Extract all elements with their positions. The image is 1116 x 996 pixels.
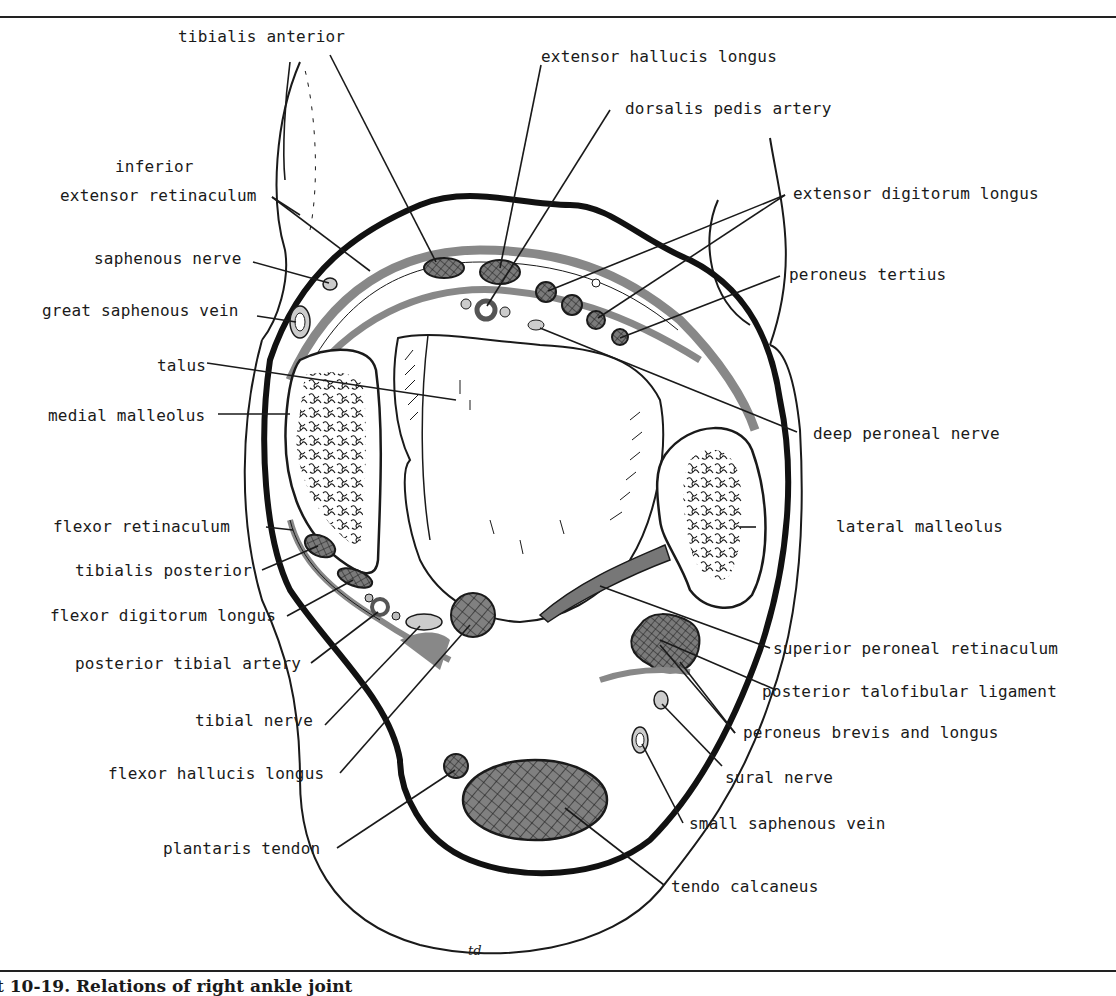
label-tibialis-anterior: tibialis anterior	[178, 28, 345, 46]
label-inferior-extensor-retinaculum-line1: inferior	[115, 158, 194, 176]
label-posterior-talofibular-ligament: posterior talofibular ligament	[762, 683, 1057, 701]
label-deep-peroneal-nerve: deep peroneal nerve	[813, 425, 1000, 443]
label-talus: talus	[157, 357, 206, 375]
label-flexor-digitorum-longus: flexor digitorum longus	[50, 607, 276, 625]
label-medial-malleolus: medial malleolus	[48, 407, 205, 425]
label-tibial-nerve: tibial nerve	[195, 712, 313, 730]
label-extensor-hallucis-longus: extensor hallucis longus	[541, 48, 777, 66]
label-flexor-hallucis-longus: flexor hallucis longus	[108, 765, 324, 783]
label-peroneus-brevis-and-longus: peroneus brevis and longus	[743, 724, 999, 742]
label-posterior-tibial-artery: posterior tibial artery	[75, 655, 301, 673]
label-peroneus-tertius: peroneus tertius	[789, 266, 946, 284]
label-sural-nerve: sural nerve	[725, 769, 833, 787]
label-great-saphenous-vein: great saphenous vein	[42, 302, 239, 320]
label-saphenous-nerve: saphenous nerve	[94, 250, 242, 268]
label-small-saphenous-vein: small saphenous vein	[689, 815, 886, 833]
label-tendo-calcaneus: tendo calcaneus	[671, 878, 819, 896]
figure-caption: t 10-19. Relations of right ankle joint	[0, 976, 352, 996]
label-dorsalis-pedis-artery: dorsalis pedis artery	[625, 100, 832, 118]
label-tibialis-posterior: tibialis posterior	[75, 562, 252, 580]
label-extensor-digitorum-longus: extensor digitorum longus	[793, 185, 1039, 203]
label-superior-peroneal-retinaculum: superior peroneal retinaculum	[773, 640, 1058, 658]
tendo-calcaneus-shape	[463, 760, 607, 840]
label-inferior-extensor-retinaculum-line2: extensor retinaculum	[60, 187, 257, 205]
artist-signature: td	[468, 943, 482, 958]
label-plantaris-tendon: plantaris tendon	[163, 840, 320, 858]
label-flexor-retinaculum: flexor retinaculum	[53, 518, 230, 536]
bottom-rule	[0, 970, 1116, 972]
label-lateral-malleolus: lateral malleolus	[836, 518, 1003, 536]
